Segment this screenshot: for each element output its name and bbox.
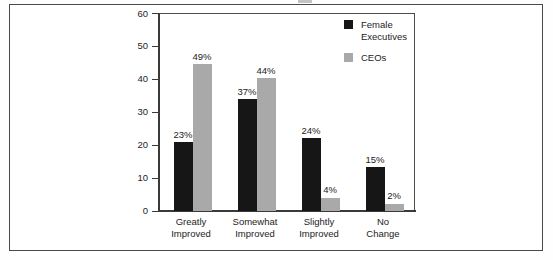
y-axis-label-60: 60	[120, 9, 148, 19]
bar-no-change-female[interactable]	[366, 167, 385, 211]
x-axis-label-greatly-improved: Greatly Improved	[158, 216, 224, 239]
y-axis-labels: 60 50 40 30 20 10 0	[118, 0, 148, 260]
y-axis-label-40: 40	[120, 74, 148, 84]
legend-swatch-ceos-icon	[344, 53, 353, 62]
clipped-title-artifact	[298, 0, 312, 3]
legend-label-female-executives-line1: Female	[361, 19, 418, 31]
bar-label-somewhat-improved-female: 37%	[230, 87, 264, 97]
legend-item-ceos[interactable]: CEOs	[344, 52, 418, 70]
y-axis-label-20: 20	[120, 140, 148, 150]
chart-legend: Female Executives CEOs	[344, 19, 418, 80]
bar-label-no-change-ceos: 2%	[379, 191, 409, 201]
bar-label-somewhat-improved-ceos: 44%	[249, 66, 283, 76]
y-axis-label-50: 50	[120, 41, 148, 51]
x-axis-label-greatly-improved-line1: Greatly	[158, 216, 224, 228]
x-axis-label-slightly-improved: Slightly Improved	[286, 216, 352, 239]
bar-slightly-improved-ceos[interactable]	[321, 198, 340, 211]
chart-figure: 60 50 40 30 20 10 0 23% 49% 37% 44% 24% …	[0, 0, 553, 260]
bar-label-slightly-improved-female: 24%	[294, 126, 328, 136]
bar-somewhat-improved-ceos[interactable]	[257, 78, 276, 211]
bar-label-slightly-improved-ceos: 4%	[315, 185, 345, 195]
legend-swatch-female-icon	[344, 20, 353, 29]
bar-label-greatly-improved-ceos: 49%	[185, 52, 219, 62]
legend-label-ceos: CEOs	[361, 52, 418, 64]
x-axis-label-somewhat-improved-line1: Somewhat	[222, 216, 288, 228]
bar-label-no-change-female: 15%	[358, 155, 392, 165]
bar-slightly-improved-female[interactable]	[302, 138, 321, 211]
bar-label-greatly-improved-female: 23%	[166, 130, 200, 140]
legend-label-ceos-line1: CEOs	[361, 52, 418, 64]
x-axis-label-somewhat-improved-line2: Improved	[222, 228, 288, 240]
x-axis-label-no-change-line1: No	[350, 216, 416, 228]
y-axis-label-30: 30	[120, 107, 148, 117]
x-axis-label-greatly-improved-line2: Improved	[158, 228, 224, 240]
bar-greatly-improved-female[interactable]	[174, 142, 193, 211]
legend-label-female-executives-line2: Executives	[361, 31, 418, 43]
legend-label-female-executives: Female Executives	[361, 19, 418, 42]
legend-item-female-executives[interactable]: Female Executives	[344, 19, 418, 42]
y-axis-label-10: 10	[120, 173, 148, 183]
x-axis-labels: Greatly Improved Somewhat Improved Sligh…	[158, 216, 415, 256]
bars-layer: 23% 49% 37% 44% 24% 4% 15% 2% Female Exe…	[158, 13, 415, 211]
x-axis-label-no-change-line2: Change	[350, 228, 416, 240]
x-axis-label-slightly-improved-line2: Improved	[286, 228, 352, 240]
y-axis-label-0: 0	[120, 206, 148, 216]
bar-somewhat-improved-female[interactable]	[238, 99, 257, 211]
bar-no-change-ceos[interactable]	[385, 204, 404, 211]
x-axis-label-somewhat-improved: Somewhat Improved	[222, 216, 288, 239]
x-axis-label-slightly-improved-line1: Slightly	[286, 216, 352, 228]
x-axis-label-no-change: No Change	[350, 216, 416, 239]
